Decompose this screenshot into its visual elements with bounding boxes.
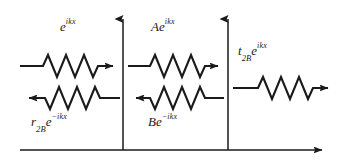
label-middle-backward-exponent: −ikx bbox=[162, 112, 178, 121]
label-middle-forward-exponent: ikx bbox=[165, 17, 175, 26]
label-incident-exponent: ikx bbox=[66, 17, 76, 26]
middle-backward-wave bbox=[136, 87, 224, 109]
transmitted-wave bbox=[233, 77, 328, 99]
reflected-wave bbox=[29, 87, 120, 109]
label-middle-forward-base: Ae bbox=[151, 19, 165, 34]
label-transmitted-subscript: 2B bbox=[242, 53, 252, 63]
label-reflected-exponent: −ikx bbox=[52, 112, 68, 121]
quantum-barrier-wave-diagram: eikx r2Be−ikx Aeikx Be−ikx t2Beikx bbox=[0, 0, 346, 161]
label-middle-backward-wave: Be−ikx bbox=[148, 113, 177, 129]
label-reflected-base: e bbox=[46, 114, 52, 129]
middle-forward-wave bbox=[128, 55, 218, 77]
label-transmitted-exponent: ikx bbox=[257, 41, 267, 50]
label-incident-wave: eikx bbox=[60, 18, 76, 34]
label-transmitted-wave: t2Beikx bbox=[238, 42, 267, 61]
incident-wave bbox=[20, 55, 113, 77]
label-reflected-wave: r2Be−ikx bbox=[31, 113, 67, 132]
label-middle-forward-wave: Aeikx bbox=[151, 18, 175, 34]
label-incident-base: e bbox=[60, 19, 66, 34]
label-middle-backward-base: Be bbox=[148, 114, 162, 129]
label-reflected-subscript: 2B bbox=[36, 124, 46, 134]
